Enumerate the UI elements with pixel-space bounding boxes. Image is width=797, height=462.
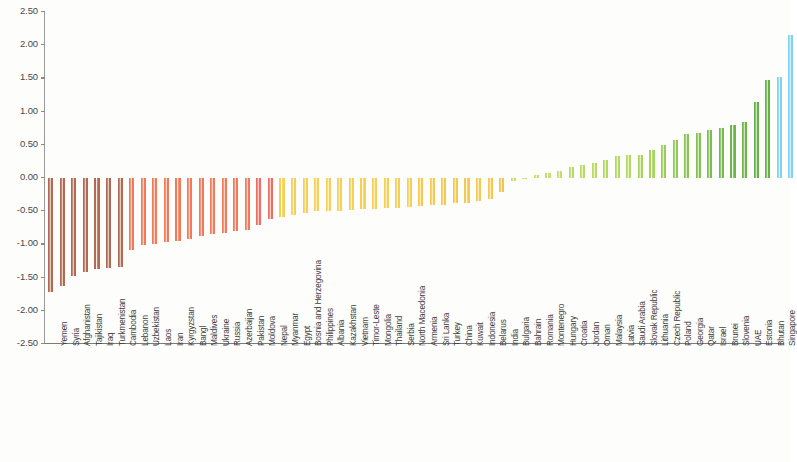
category-label: Bosnia and Herzegovina xyxy=(315,260,323,346)
bar xyxy=(522,178,527,179)
category-label: Czech Republic xyxy=(674,291,682,346)
category-label-text: Azerbaijan xyxy=(246,309,254,346)
category-label: Montenegro xyxy=(558,304,566,346)
y-tick-label: 0.00 xyxy=(20,171,38,182)
bar xyxy=(476,178,481,201)
bar xyxy=(407,178,412,207)
category-label: Mongolia xyxy=(385,314,393,346)
category-label-text: Iraq xyxy=(107,332,115,346)
category-label: Israel xyxy=(720,327,728,346)
category-label: Croatia xyxy=(581,321,589,346)
category-label-text: Romania xyxy=(547,314,555,346)
category-label: Turkmenistan xyxy=(119,299,127,347)
category-label: Iraq xyxy=(107,332,115,346)
category-label: Yemen xyxy=(61,322,69,346)
category-label-text: Syria xyxy=(73,328,81,346)
category-label: Malaysia xyxy=(616,315,624,346)
bar xyxy=(511,178,516,181)
bar xyxy=(268,178,273,219)
y-tick-label: -2.50 xyxy=(17,337,38,348)
category-label-text: North Macedonia xyxy=(419,286,427,346)
category-label-text: Lebanon xyxy=(142,315,150,346)
category-label-text: Timor-Leste xyxy=(373,304,381,346)
category-label-text: China xyxy=(466,325,474,346)
category-label: Maldives xyxy=(211,315,219,346)
category-label-text: Armenia xyxy=(431,317,439,346)
category-label: Kazakhstan xyxy=(350,305,358,346)
category-label: Kyrgyzstan xyxy=(188,307,196,346)
category-label-text: Hungary xyxy=(570,316,578,346)
category-label: Russia xyxy=(234,322,242,346)
bar xyxy=(765,80,770,178)
bar xyxy=(615,156,620,178)
bar xyxy=(430,178,435,205)
category-label-text: Kuwait xyxy=(477,322,485,346)
category-label-text: Bahrain xyxy=(535,319,543,346)
category-label: Syria xyxy=(73,328,81,346)
category-label-text: Georgia xyxy=(697,318,705,346)
category-label: Pakistan xyxy=(258,316,266,346)
category-label-text: UAE xyxy=(755,330,763,346)
y-tick-label: 2.50 xyxy=(20,5,38,16)
bar xyxy=(545,173,550,178)
category-label-text: Bulgaria xyxy=(523,317,531,346)
category-label: Sri Lanka xyxy=(443,313,451,346)
bar xyxy=(245,178,250,230)
category-label-text: Pakistan xyxy=(258,316,266,346)
bar xyxy=(349,178,354,210)
bar xyxy=(464,178,469,203)
bar xyxy=(118,178,123,267)
bar xyxy=(187,178,192,239)
bar xyxy=(372,178,377,209)
category-label: Poland xyxy=(685,321,693,346)
bar xyxy=(199,178,204,236)
y-tick-label: 0.50 xyxy=(20,138,38,149)
bar xyxy=(94,178,99,269)
category-label-text: Malaysia xyxy=(616,315,624,346)
category-label: Saudi Arabia xyxy=(639,301,647,346)
y-tick-label: -1.50 xyxy=(17,271,38,282)
bar xyxy=(233,178,238,231)
category-label-text: Cambodia xyxy=(130,310,138,346)
category-label-text: Serbia xyxy=(408,323,416,346)
x-axis-category-labels: YemenSyriaAfghanistanTajikistanIraqTurkm… xyxy=(44,346,784,462)
category-label-text: Kazakhstan xyxy=(350,305,358,346)
category-label-text: Ukraine xyxy=(223,319,231,346)
bar xyxy=(569,167,574,178)
bar xyxy=(788,35,793,178)
category-label-text: Egypt xyxy=(304,326,312,346)
category-label-text: Albania xyxy=(338,320,346,346)
category-label-text: Belarus xyxy=(500,319,508,346)
y-tick-label: -0.50 xyxy=(17,204,38,215)
category-label-text: Russia xyxy=(234,322,242,346)
bar xyxy=(534,175,539,178)
category-label: Slovak Republic xyxy=(651,290,659,346)
category-label-text: Estonia xyxy=(766,320,774,346)
category-label-text: Myanmar xyxy=(292,313,300,346)
bar xyxy=(592,163,597,178)
category-label-text: Saudi Arabia xyxy=(639,301,647,346)
bar xyxy=(395,178,400,208)
category-label-text: Iran xyxy=(177,332,185,346)
bar xyxy=(661,145,666,178)
bar xyxy=(684,134,689,178)
category-label-text: Nepal xyxy=(281,325,289,346)
category-label: Bhutan xyxy=(778,321,786,346)
bar xyxy=(777,77,782,178)
category-label-text: Slovenia xyxy=(743,316,751,346)
category-label: UAE xyxy=(755,330,763,346)
category-label: Tajikistan xyxy=(96,314,104,346)
category-label-text: India xyxy=(512,329,520,346)
category-label-text: Brunei xyxy=(732,323,740,346)
category-label-text: Philippines xyxy=(327,308,335,346)
bar xyxy=(279,178,284,217)
category-label-text: Uzbekistan xyxy=(153,307,161,346)
bar xyxy=(164,178,169,242)
category-label-text: Maldives xyxy=(211,315,219,346)
category-label-text: Afghanistan xyxy=(84,304,92,346)
bar xyxy=(384,178,389,208)
bar xyxy=(71,178,76,276)
category-label: Turkey xyxy=(454,322,462,346)
bar xyxy=(141,178,146,245)
bar xyxy=(48,178,53,292)
